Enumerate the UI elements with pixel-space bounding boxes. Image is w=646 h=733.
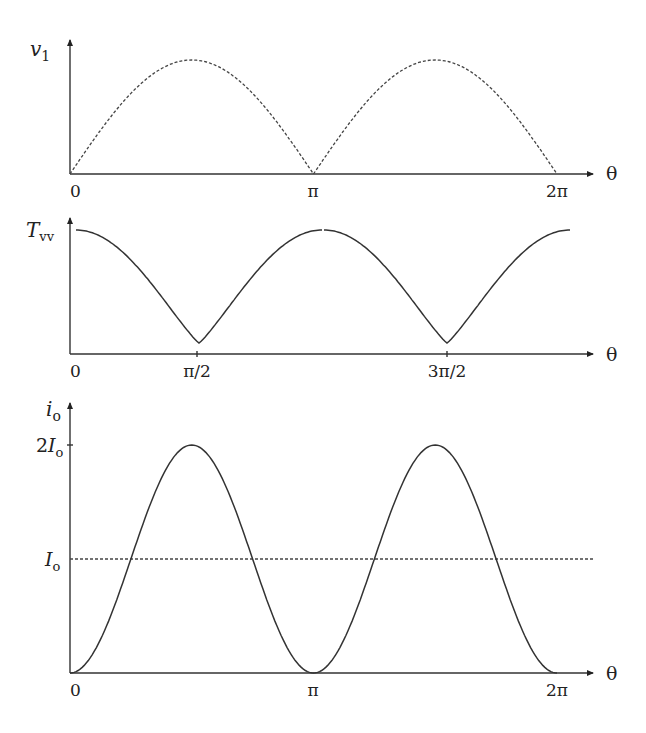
waveform-diagram: v1 θ 0 π 2π Tvv θ 0 π/2 3π/2 io 2Io Io θ…	[0, 0, 646, 733]
v1-curve	[70, 60, 557, 174]
panel-io: io 2Io Io θ 0 π 2π	[36, 397, 617, 700]
x-label-theta-v1: θ	[606, 162, 617, 184]
x-tick-0: 0	[70, 181, 81, 201]
y-tick-io: Io	[44, 548, 61, 574]
y-label-tvv: Tvv	[26, 218, 55, 244]
x-tick-0: 0	[70, 361, 81, 381]
y-tick-2io: 2Io	[36, 434, 64, 460]
panel-tvv: Tvv θ 0 π/2 3π/2	[26, 218, 617, 381]
x-label-theta-tvv: θ	[606, 343, 617, 365]
x-tick-2pi: 2π	[546, 680, 568, 700]
y-label-io: io	[46, 397, 61, 424]
y-label-v1: v1	[30, 37, 50, 64]
x-tick-pi-2: π/2	[183, 361, 211, 381]
x-tick-2pi: 2π	[546, 181, 568, 201]
x-tick-pi: π	[307, 680, 318, 700]
x-tick-3pi-2: 3π/2	[428, 361, 467, 381]
panel-v1: v1 θ 0 π 2π	[30, 37, 617, 201]
x-tick-0: 0	[70, 680, 81, 700]
io-curve	[70, 445, 557, 673]
tvv-curve	[76, 230, 570, 343]
x-label-theta-io: θ	[606, 662, 617, 684]
x-tick-pi: π	[307, 181, 318, 201]
